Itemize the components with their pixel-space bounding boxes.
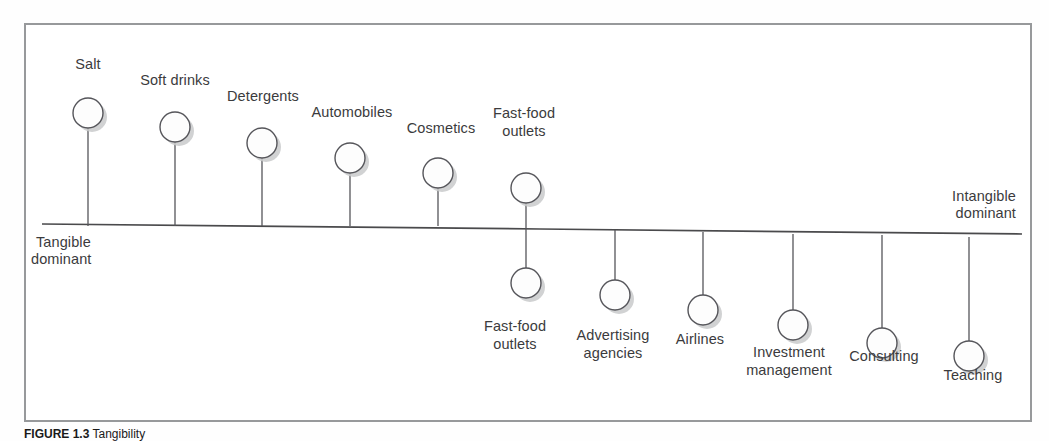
axis-line xyxy=(42,224,1022,234)
bubble[interactable] xyxy=(335,143,365,173)
tangible-dominant-line1: Tangible xyxy=(36,234,91,250)
data-point-investment-management-below[interactable] xyxy=(778,234,812,344)
bubble[interactable] xyxy=(423,158,453,188)
point-label-advertising-agencies-below: Advertisingagencies xyxy=(577,327,650,361)
point-label-salt-above: Salt xyxy=(75,56,100,72)
point-label-fast-food-outlets-below: Fast-foodoutlets xyxy=(484,318,546,352)
continuum-axis xyxy=(42,224,1022,234)
data-labels-group: SaltSoft drinksDetergentsAutomobilesCosm… xyxy=(75,56,1002,383)
bubble[interactable] xyxy=(511,268,541,298)
point-label-detergents-above: Detergents xyxy=(227,88,299,104)
bubble[interactable] xyxy=(778,310,808,340)
bubble[interactable] xyxy=(688,295,718,325)
figure-stage: Tangible dominant Intangible dominant Sa… xyxy=(0,0,1049,441)
tangibility-continuum-chart: Tangible dominant Intangible dominant Sa… xyxy=(0,0,1049,441)
point-label-investment-management-below: Investmentmanagement xyxy=(746,344,832,378)
point-label-cosmetics-above: Cosmetics xyxy=(407,120,476,136)
figure-caption-number: FIGURE 1.3 xyxy=(24,427,89,441)
bubble[interactable] xyxy=(160,112,190,142)
data-point-salt-above[interactable] xyxy=(73,98,107,226)
data-point-automobiles-above[interactable] xyxy=(335,143,369,226)
data-point-advertising-agencies-below[interactable] xyxy=(600,230,634,314)
point-label-teaching-below: Teaching xyxy=(944,367,1003,383)
data-point-soft-drinks-above[interactable] xyxy=(160,112,194,226)
figure-caption: FIGURE 1.3 Tangibility xyxy=(24,427,145,441)
data-point-teaching-below[interactable] xyxy=(954,237,988,375)
point-label-consulting-below: Consulting xyxy=(849,348,919,364)
point-label-automobiles-above: Automobiles xyxy=(312,104,393,120)
data-point-cosmetics-above[interactable] xyxy=(423,158,457,226)
figure-caption-text: Tangibility xyxy=(92,427,145,441)
bubble[interactable] xyxy=(511,173,541,203)
intangible-dominant-line1: Intangible xyxy=(952,188,1016,204)
bubble[interactable] xyxy=(600,280,630,310)
point-label-fast-food-outlets-above: Fast-foodoutlets xyxy=(493,105,555,139)
bubble[interactable] xyxy=(247,128,277,158)
data-point-consulting-below[interactable] xyxy=(867,235,901,362)
axis-right-label: Intangible dominant xyxy=(952,188,1016,221)
point-label-airlines-below: Airlines xyxy=(676,331,724,347)
tangible-dominant-line2: dominant xyxy=(31,251,91,267)
point-label-soft-drinks-above: Soft drinks xyxy=(140,72,210,88)
axis-left-label: Tangible dominant xyxy=(31,234,91,267)
bubble[interactable] xyxy=(73,98,103,128)
intangible-dominant-line2: dominant xyxy=(956,205,1016,221)
data-point-fast-food-outlets-above[interactable] xyxy=(511,173,545,226)
data-point-airlines-below[interactable] xyxy=(688,232,722,329)
data-point-detergents-above[interactable] xyxy=(247,128,281,226)
data-point-fast-food-outlets-below[interactable] xyxy=(511,226,545,302)
